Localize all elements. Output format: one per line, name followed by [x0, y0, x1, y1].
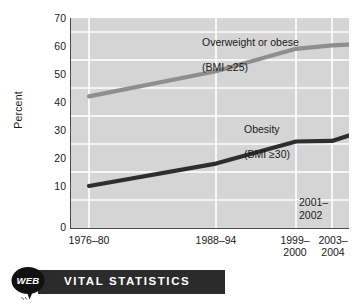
- y-tick-label-0: 0: [32, 222, 66, 233]
- series-annotation-overweight-line1: Overweight or obese: [202, 36, 299, 49]
- series-annotation-obesity-line2: (BMI ≥30): [244, 148, 290, 161]
- plot-area: Overweight or obese (BMI ≥25) Obesity (B…: [70, 18, 349, 229]
- series-annotation-overweight-or-obese: Overweight or obese (BMI ≥25): [202, 23, 299, 86]
- vital-statistics-banner[interactable]: VITAL STATISTICS WEB: [8, 266, 363, 302]
- y-axis-title: Percent: [12, 75, 24, 145]
- y-tick-label-30: 30: [32, 125, 66, 136]
- x-tick-label-2003-2004: 2003– 2004: [307, 234, 359, 258]
- web-badge-tail-marks: [22, 297, 28, 300]
- series-line-obesity: [89, 136, 349, 186]
- series-annotation-obesity: Obesity (BMI ≥30): [244, 110, 290, 173]
- x-tick-label-1976-80: 1976–80: [58, 234, 120, 246]
- y-tick-label-70: 70: [32, 13, 66, 24]
- x-tick-label-1988-94: 1988–94: [185, 234, 247, 246]
- y-tick-label-20: 20: [32, 153, 66, 164]
- y-tick-label-10: 10: [32, 181, 66, 192]
- y-tick-label-40: 40: [32, 97, 66, 108]
- y-tick-label-60: 60: [32, 41, 66, 52]
- inplot-note-2001-2002: 2001– 2002: [299, 196, 328, 222]
- series-annotation-obesity-line1: Obesity: [244, 123, 290, 136]
- web-badge-label: WEB: [12, 275, 44, 286]
- y-axis-tick-labels: 70 60 50 40 30 20 10 0: [28, 0, 66, 305]
- banner-title: VITAL STATISTICS: [64, 275, 190, 287]
- web-badge-pointer: [27, 292, 33, 300]
- series-annotation-overweight-line2: (BMI ≥25): [202, 61, 299, 74]
- vital-statistics-figure: 70 60 50 40 30 20 10 0 Percent: [0, 0, 363, 305]
- y-tick-label-50: 50: [32, 69, 66, 80]
